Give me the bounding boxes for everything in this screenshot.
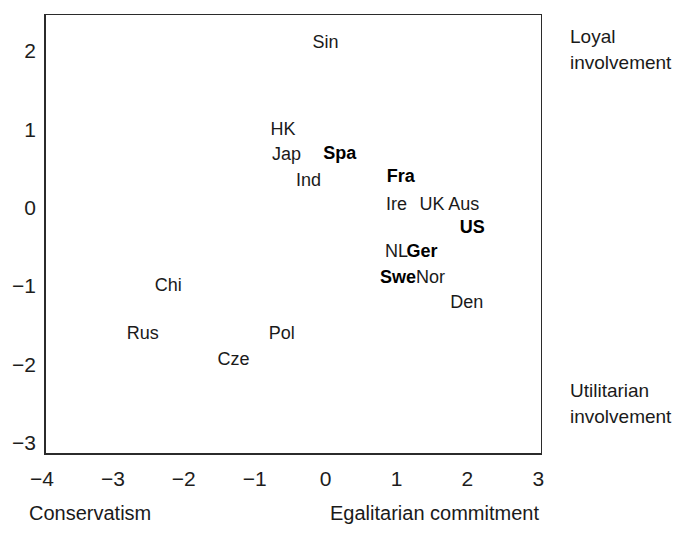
annotation-loyal-line2: involvement [570,50,671,76]
data-point-label: Ire [386,195,407,213]
y-axis-tick: 2 [0,40,36,61]
y-axis-tick-labels: 210−1−2−3 [0,0,36,539]
x-axis-tick: −1 [243,468,267,489]
y-axis-tick: −1 [0,275,36,296]
y-axis-tick: 1 [0,118,36,139]
data-point-label: Jap [272,145,301,163]
y-axis-tick: −3 [0,432,36,453]
data-point-label: Pol [269,324,295,342]
data-point-label: US [460,218,485,236]
x-axis-tick-labels: −4−3−2−10123 [0,468,677,494]
plot-frame-top-border [44,14,542,15]
data-point-label: Fra [387,167,415,185]
x-axis-tick: 2 [462,468,474,489]
data-point-label: Ger [407,242,438,260]
x-axis-tick: −3 [101,468,125,489]
x-axis-tick: 0 [320,468,332,489]
x-axis-title-left: Conservatism [29,503,151,523]
data-point-label: Spa [323,144,356,162]
data-point-label: Nor [416,268,445,286]
annotation-utilitarian-line2: involvement [570,404,671,430]
annotation-utilitarian-line1: Utilitarian [570,378,671,404]
x-axis-tick: 1 [391,468,403,489]
data-point-label: Rus [127,324,159,342]
annotation-utilitarian-involvement: Utilitarian involvement [570,378,671,429]
annotation-loyal-involvement: Loyal involvement [570,24,671,75]
plot-frame-right-border [541,14,542,455]
data-point-label: Den [450,293,483,311]
data-point-label: Chi [155,276,182,294]
y-axis-tick: 0 [0,197,36,218]
data-point-label: Aus [448,195,479,213]
data-point-label: Swe [380,268,416,286]
annotation-loyal-line1: Loyal [570,24,671,50]
x-axis-tick: −4 [30,468,54,489]
data-point-label: Sin [313,33,339,51]
data-point-label: UK [419,195,444,213]
x-axis-title-right: Egalitarian commitment [330,503,539,523]
scatter-plot-figure: SinHKJapSpaIndFraIreUKAusUSNLGerSweNorDe… [0,0,677,539]
y-axis-tick: −2 [0,353,36,374]
data-point-label: HK [271,120,296,138]
data-point-label: NL [385,242,408,260]
x-axis-tick: 3 [532,468,544,489]
data-point-label: Cze [217,350,249,368]
x-axis-tick: −2 [172,468,196,489]
data-point-label: Ind [296,171,321,189]
